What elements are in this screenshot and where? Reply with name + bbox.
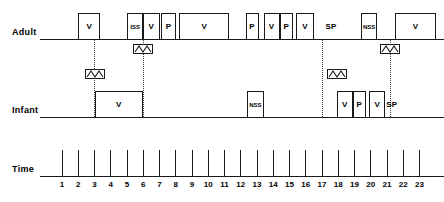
axis-tick — [403, 150, 404, 176]
event-box-v: V — [78, 13, 100, 40]
feed-marker-icon — [85, 69, 105, 79]
axis-tick — [175, 150, 176, 176]
axis-tick-label: 1 — [60, 180, 64, 189]
axis-tick — [322, 150, 323, 176]
axis-tick-label: 10 — [204, 180, 213, 189]
axis-tick-label: 13 — [253, 180, 262, 189]
row-label-infant: Infant — [12, 105, 38, 115]
axis-tick-label: 17 — [318, 180, 327, 189]
axis-tick-label: 9 — [190, 180, 194, 189]
axis-tick — [419, 150, 420, 176]
axis-tick-label: 18 — [334, 180, 343, 189]
event-box-v: V — [369, 91, 385, 118]
event-box-p: P — [280, 13, 293, 40]
event-box-v: V — [95, 91, 144, 118]
event-box-sp: SP — [322, 13, 340, 40]
axis-tick-label: 14 — [269, 180, 278, 189]
axis-tick-label: 15 — [285, 180, 294, 189]
axis-tick — [110, 150, 111, 176]
axis-tick — [127, 150, 128, 176]
axis-tick-label: 3 — [92, 180, 96, 189]
event-box-v: V — [179, 13, 229, 40]
feed-marker-icon — [380, 44, 400, 54]
feed-marker-icon — [327, 69, 347, 79]
axis-tick — [273, 150, 274, 176]
event-box-iss: ISS — [127, 13, 143, 40]
event-box-p: P — [161, 13, 176, 40]
axis-tick-label: 8 — [174, 180, 178, 189]
event-box-v: V — [337, 91, 353, 118]
axis-tick-label: 11 — [220, 180, 228, 189]
axis-tick-label: 2 — [76, 180, 80, 189]
axis-tick — [208, 150, 209, 176]
row-baseline — [40, 39, 444, 40]
axis-tick — [257, 150, 258, 176]
row-label-adult: Adult — [12, 27, 37, 37]
axis-tick-label: 4 — [109, 180, 113, 189]
connector-dotted-line — [322, 39, 323, 117]
event-box-v: V — [296, 13, 314, 40]
axis-tick — [192, 150, 193, 176]
event-box-p: P — [246, 13, 259, 40]
event-box-sp: SP — [385, 91, 398, 118]
event-box-p: P — [353, 91, 366, 118]
axis-tick-label: 21 — [383, 180, 392, 189]
axis-tick-label: 16 — [301, 180, 310, 189]
axis-tick — [354, 150, 355, 176]
axis-tick-label: 22 — [399, 180, 408, 189]
axis-tick — [62, 150, 63, 176]
event-box-v: V — [264, 13, 280, 40]
timeline-chart: AdultVISSVPVPVPVSPNSSVInfantVNSSVPVSPTim… — [0, 0, 444, 202]
axis-tick — [159, 150, 160, 176]
event-box-v: V — [395, 13, 436, 40]
axis-tick-label: 23 — [415, 180, 424, 189]
event-box-v: V — [143, 13, 159, 40]
event-box-nss: NSS — [361, 13, 377, 40]
axis-tick — [240, 150, 241, 176]
time-axis-line — [40, 176, 444, 177]
axis-tick — [338, 150, 339, 176]
axis-tick-label: 6 — [141, 180, 145, 189]
feed-marker-icon — [133, 44, 153, 54]
axis-tick — [143, 150, 144, 176]
axis-tick — [289, 150, 290, 176]
axis-tick — [94, 150, 95, 176]
axis-tick — [387, 150, 388, 176]
axis-tick-label: 12 — [236, 180, 245, 189]
axis-tick-label: 19 — [350, 180, 359, 189]
axis-tick-label: 7 — [157, 180, 161, 189]
axis-tick — [370, 150, 371, 176]
event-box-nss: NSS — [247, 91, 263, 118]
axis-tick-label: 20 — [366, 180, 375, 189]
axis-tick — [224, 150, 225, 176]
row-label-time: Time — [12, 164, 34, 174]
axis-tick — [78, 150, 79, 176]
axis-tick-label: 5 — [125, 180, 129, 189]
axis-tick — [305, 150, 306, 176]
